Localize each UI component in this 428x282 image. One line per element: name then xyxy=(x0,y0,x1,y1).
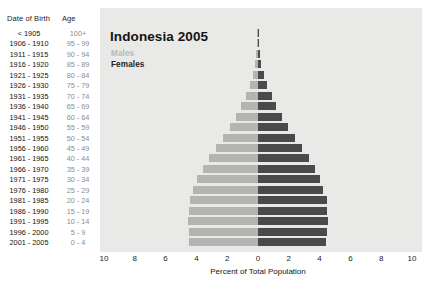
legend-label-females: Females xyxy=(111,60,144,69)
age-group-cell: 45 - 49 xyxy=(58,144,98,154)
bar-female xyxy=(258,228,327,236)
column-header-date-of-birth: Date of Birth xyxy=(7,14,50,23)
bar-female xyxy=(258,144,302,152)
age-group-cell: 60 - 64 xyxy=(58,113,98,123)
bar-female xyxy=(258,60,261,68)
bar-female xyxy=(258,134,295,142)
bar-female xyxy=(258,50,260,58)
age-group-cell: 95 - 99 xyxy=(58,39,98,49)
x-axis-tick-label: 2 xyxy=(225,254,229,263)
bar-female xyxy=(258,196,327,204)
date-of-birth-cell: 1936 - 1940 xyxy=(0,102,58,112)
chart-title: Indonesia 2005 xyxy=(110,29,208,44)
bar-male xyxy=(203,165,258,173)
legend-label-males: Males xyxy=(111,49,134,58)
date-of-birth-cell: 1961 - 1965 xyxy=(0,154,58,164)
bar-male xyxy=(223,134,258,142)
age-group-cell: 25 - 29 xyxy=(58,186,98,196)
date-of-birth-cell: 1956 - 1960 xyxy=(0,144,58,154)
bar-female xyxy=(258,217,328,225)
bar-female xyxy=(258,165,315,173)
bar-male xyxy=(241,102,258,110)
age-group-cell: 20 - 24 xyxy=(58,196,98,206)
x-axis-tick-label: 0 xyxy=(256,254,260,263)
x-axis-tick-label: 2 xyxy=(287,254,291,263)
x-axis-tick-label: 10 xyxy=(408,254,417,263)
bar-male xyxy=(189,238,258,246)
bar-female xyxy=(258,154,309,162)
bar-male xyxy=(189,207,258,215)
date-of-birth-cell: 1996 - 2000 xyxy=(0,228,58,238)
bar-male xyxy=(250,81,258,89)
x-axis-tick-label: 6 xyxy=(163,254,167,263)
population-pyramid-figure: Date of Birth Age < 1905100+1906 - 19109… xyxy=(0,0,428,282)
bar-female xyxy=(258,207,327,215)
date-of-birth-cell: 1966 - 1970 xyxy=(0,165,58,175)
age-group-cell: 0 - 4 xyxy=(58,238,98,248)
bar-female xyxy=(258,29,259,37)
bar-male xyxy=(190,196,258,204)
age-label-table: Date of Birth Age < 1905100+1906 - 19109… xyxy=(0,0,100,282)
bar-female xyxy=(258,113,282,121)
x-axis-title: Percent of Total Population xyxy=(210,267,305,276)
date-of-birth-cell: 1946 - 1950 xyxy=(0,123,58,133)
date-of-birth-cell: 1951 - 1955 xyxy=(0,134,58,144)
age-group-cell: 15 - 19 xyxy=(58,207,98,217)
x-axis-tick-label: 4 xyxy=(194,254,198,263)
bar-female xyxy=(258,175,320,183)
bar-male xyxy=(230,123,258,131)
date-of-birth-cell: 1981 - 1985 xyxy=(0,196,58,206)
age-group-cell: 90 - 94 xyxy=(58,50,98,60)
bar-male xyxy=(193,186,258,194)
bar-male xyxy=(209,154,258,162)
bars-container xyxy=(100,8,422,252)
bar-female xyxy=(258,123,288,131)
date-of-birth-cell: 1911 - 1915 xyxy=(0,50,58,60)
bar-female xyxy=(258,71,264,79)
date-of-birth-cell: 1916 - 1920 xyxy=(0,60,58,70)
date-of-birth-cell: 1976 - 1980 xyxy=(0,186,58,196)
age-group-cell: 85 - 89 xyxy=(58,60,98,70)
bar-female xyxy=(258,102,276,110)
bar-male xyxy=(236,113,258,121)
x-axis-tick-label: 8 xyxy=(379,254,383,263)
age-group-cell: 100+ xyxy=(58,29,98,39)
x-axis-tick-label: 8 xyxy=(133,254,137,263)
column-header-age: Age xyxy=(62,14,76,23)
age-group-cell: 70 - 74 xyxy=(58,92,98,102)
date-of-birth-cell: 1991 - 1995 xyxy=(0,217,58,227)
age-group-cell: 65 - 69 xyxy=(58,102,98,112)
date-of-birth-cell: 1926 - 1930 xyxy=(0,81,58,91)
date-of-birth-cell: 1921 - 1925 xyxy=(0,71,58,81)
age-group-cell: 75 - 79 xyxy=(58,81,98,91)
bar-female xyxy=(258,238,326,246)
date-of-birth-cell: < 1905 xyxy=(0,29,58,39)
bar-female xyxy=(258,39,259,47)
x-axis: Percent of Total Population 108642024681… xyxy=(0,252,428,282)
date-of-birth-cell: 1931 - 1935 xyxy=(0,92,58,102)
bar-male xyxy=(188,217,258,225)
bar-female xyxy=(258,186,323,194)
date-of-birth-cell: 1971 - 1975 xyxy=(0,175,58,185)
bar-female xyxy=(258,92,272,100)
bar-male xyxy=(216,144,258,152)
x-axis-tick-label: 6 xyxy=(348,254,352,263)
x-axis-tick-label: 4 xyxy=(317,254,321,263)
age-group-cell: 55 - 59 xyxy=(58,123,98,133)
date-of-birth-cell: 1906 - 1910 xyxy=(0,39,58,49)
date-of-birth-cell: 1941 - 1945 xyxy=(0,113,58,123)
age-group-cell: 80 - 84 xyxy=(58,71,98,81)
bar-male xyxy=(189,228,258,236)
age-group-cell: 35 - 39 xyxy=(58,165,98,175)
age-group-cell: 50 - 54 xyxy=(58,134,98,144)
age-group-cell: 5 - 9 xyxy=(58,228,98,238)
age-group-cell: 40 - 44 xyxy=(58,154,98,164)
date-of-birth-cell: 1986 - 1990 xyxy=(0,207,58,217)
bar-male xyxy=(197,175,258,183)
bar-female xyxy=(258,81,267,89)
chart-plot-area: Indonesia 2005 Males Females xyxy=(100,8,422,252)
x-axis-tick-label: 10 xyxy=(100,254,109,263)
bar-male xyxy=(246,92,258,100)
date-of-birth-cell: 2001 - 2005 xyxy=(0,238,58,248)
age-group-cell: 10 - 14 xyxy=(58,217,98,227)
